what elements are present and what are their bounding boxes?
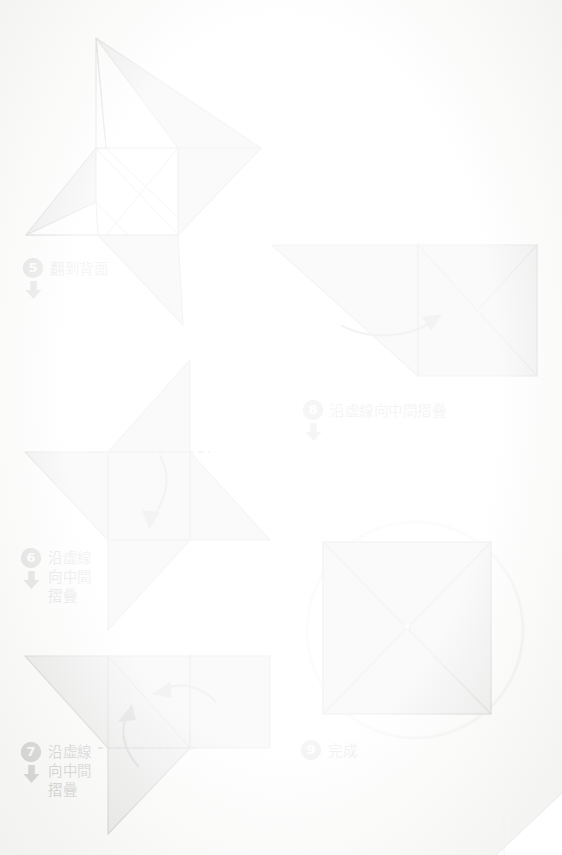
step7-right-wing [190,656,270,748]
figure-step-8 [270,238,555,383]
star-blade-right [178,148,261,235]
caption-step-5: 5 翻到背面 [22,258,108,299]
step-8-badge-column: 8 [302,400,324,441]
step-9-badge-column: 9 [300,740,322,760]
step9-center-notch [404,623,410,629]
page-corner-fold [482,793,562,855]
down-arrow-icon-6 [23,571,40,589]
step6-blade-bottom [108,540,190,630]
down-arrow-icon-5 [25,281,42,299]
caption-step-6: 6 沿虛線 向中間 摺疊 [20,548,92,606]
caption-step-8: 8 沿虛線向中間摺疊 [302,400,446,441]
step8-left-triangle [272,245,418,376]
step-number-badge-8: 8 [303,400,323,420]
caption-text-step-5: 翻到背面 [50,258,108,279]
step-number-badge-7: 7 [21,742,41,762]
step-6-badge-column: 6 [20,548,42,589]
step-number-badge-6: 6 [21,548,41,568]
instruction-page: 5 翻到背面 [0,0,562,855]
step7-bottom-triangle [108,748,190,834]
caption-step-9: 9 完成 [300,740,357,761]
down-arrow-icon-7 [23,765,40,783]
star-blade-bottom [98,235,183,325]
down-arrow-icon-8 [305,423,322,441]
step-5-badge-column: 5 [22,258,44,299]
caption-text-step-8: 沿虛線向中間摺疊 [330,400,446,421]
caption-text-step-6: 沿虛線 向中間 摺疊 [48,548,92,606]
step-7-badge-column: 7 [20,742,42,783]
caption-text-step-9: 完成 [328,740,357,761]
caption-text-step-7: 沿虛線 向中間 摺疊 [48,742,92,800]
step6-blade-left [25,452,108,540]
step-number-badge-5: 5 [23,258,43,278]
step6-blade-top [108,360,190,452]
step6-blade-right [190,452,270,540]
step-number-badge-9: 9 [301,740,321,760]
star-blade-top [96,38,261,148]
caption-step-7: 7 沿虛線 向中間 摺疊 [20,742,92,800]
figure-step-9 [285,520,545,745]
